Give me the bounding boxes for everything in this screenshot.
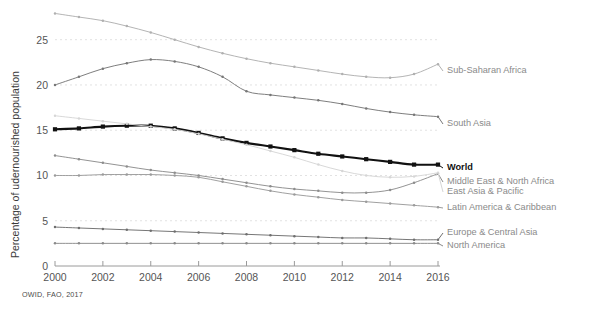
data-point (102, 173, 105, 176)
data-point (389, 76, 392, 79)
data-point (173, 172, 176, 175)
data-point (341, 191, 344, 194)
axis-group (55, 261, 440, 266)
source-note: OWID, FAO, 2017 (22, 290, 83, 299)
data-point (78, 16, 81, 19)
data-point (221, 52, 224, 55)
data-point (293, 235, 296, 238)
data-point (269, 185, 272, 188)
data-point (173, 128, 176, 131)
data-point (126, 62, 129, 65)
series-lines-group (53, 12, 440, 244)
data-point (78, 174, 81, 177)
x-tick-label-2012: 2012 (331, 271, 355, 283)
data-point (389, 111, 392, 114)
data-point (150, 31, 153, 34)
data-point (197, 242, 200, 245)
leader-line-europe-central-asia (438, 233, 443, 240)
data-point (101, 124, 105, 128)
y-axis-title: Percentage of udernourished population (9, 71, 21, 258)
data-point (365, 242, 368, 245)
y-tick-label-25: 25 (36, 34, 48, 46)
data-point (126, 165, 129, 168)
leader-line-east-asia-pacific (438, 173, 443, 192)
data-point (150, 169, 153, 172)
data-point (412, 163, 416, 167)
data-point (317, 190, 320, 193)
data-point (53, 127, 57, 131)
data-point (365, 107, 368, 110)
data-point (173, 60, 176, 63)
data-point (78, 76, 81, 79)
data-point (269, 242, 272, 245)
data-point (150, 242, 153, 245)
data-point (268, 144, 272, 148)
data-point (413, 114, 416, 117)
data-point (340, 154, 344, 158)
data-point (341, 170, 344, 173)
series-label-north-america: North America (447, 240, 506, 250)
series-east-asia-pacific (54, 114, 440, 178)
data-point (150, 125, 153, 128)
data-point (317, 236, 320, 239)
series-sub-saharan-africa (54, 12, 440, 79)
data-point (150, 229, 153, 232)
data-point (413, 181, 416, 184)
y-tick-label-10: 10 (36, 169, 48, 181)
gridlines (55, 40, 440, 221)
data-point (341, 199, 344, 202)
data-point (221, 232, 224, 235)
x-tick-label-2008: 2008 (235, 271, 259, 283)
x-tick-label-2000: 2000 (43, 271, 67, 283)
data-point (364, 157, 368, 161)
data-point (54, 242, 57, 245)
data-point (365, 200, 368, 203)
data-point (389, 189, 392, 192)
data-point (102, 19, 105, 22)
data-point (245, 181, 248, 184)
data-point (413, 238, 416, 241)
data-point (269, 94, 272, 97)
data-point (269, 62, 272, 65)
data-point (389, 176, 392, 179)
data-point (413, 204, 416, 207)
data-point (317, 69, 320, 72)
x-tick-label-2006: 2006 (187, 271, 211, 283)
y-tick-labels: 0510152025 (36, 34, 48, 272)
series-label-middle-east-north-africa: Middle East & North Africa (447, 176, 555, 186)
data-point (102, 162, 105, 165)
leader-line-sub-saharan-africa (438, 64, 443, 71)
data-point (316, 152, 320, 156)
data-point (317, 242, 320, 245)
data-point (173, 242, 176, 245)
data-point (245, 143, 248, 146)
data-point (388, 160, 392, 164)
series-line-east-asia-pacific (55, 116, 438, 178)
data-point (413, 242, 416, 245)
data-point (341, 242, 344, 245)
data-point (197, 133, 200, 136)
leader-line-south-asia (438, 117, 443, 124)
data-point (245, 57, 248, 60)
y-tick-label-20: 20 (36, 79, 48, 91)
data-point (221, 76, 224, 79)
data-point (341, 103, 344, 106)
data-point (197, 46, 200, 49)
x-tick-label-2004: 2004 (139, 271, 163, 283)
series-latin-america-caribbean (54, 173, 440, 208)
x-tick-label-2010: 2010 (283, 271, 307, 283)
data-point (245, 233, 248, 236)
data-point (77, 126, 81, 130)
data-point (341, 73, 344, 76)
data-point (293, 96, 296, 99)
data-point (293, 66, 296, 69)
data-point (365, 174, 368, 177)
series-line-south-asia (55, 60, 438, 117)
data-point (78, 158, 81, 161)
data-point (126, 242, 129, 245)
series-europe-central-asia (54, 226, 440, 241)
data-point (413, 73, 416, 76)
data-point (197, 231, 200, 234)
data-point (221, 178, 224, 181)
data-point (78, 242, 81, 245)
